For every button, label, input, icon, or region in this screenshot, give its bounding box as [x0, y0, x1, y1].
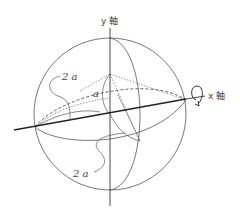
- x-axis-label: x 軸: [208, 90, 225, 101]
- equator-front: [35, 100, 186, 140]
- lower-2a-label: 2 a: [72, 168, 89, 179]
- upper-2a-label: 2 a: [61, 71, 78, 82]
- equator-back-dashed: [35, 89, 186, 127]
- cone-curve: [103, 74, 111, 114]
- a-label: a: [93, 88, 99, 99]
- y-axis-label: y 軸: [101, 15, 118, 26]
- sphere-diagram: y 軸 x 軸 2 a 2 a a: [0, 0, 240, 208]
- dotted-cone: [80, 74, 186, 141]
- rotation-arrow-icon: [192, 86, 203, 104]
- meridian-ellipse-front: [110, 38, 140, 190]
- x-axis: [14, 99, 186, 130]
- rotation-arrowhead-icon: [195, 101, 199, 106]
- cone-lower-curve: [110, 114, 140, 141]
